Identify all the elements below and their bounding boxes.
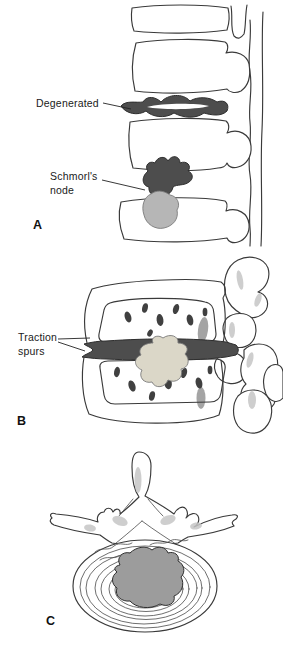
schmorls-node-disc-shape bbox=[143, 157, 192, 196]
degenerated-label: Degenerated bbox=[36, 96, 99, 110]
superior-articular-process bbox=[225, 257, 269, 318]
traction-spurs-label-line1: Traction bbox=[18, 330, 57, 344]
vertebral-body-upper bbox=[132, 39, 249, 93]
vertebral-body-lower bbox=[119, 198, 249, 243]
panel-letter-a: A bbox=[33, 218, 42, 232]
schmorls-node-label-line1: Schmorl's bbox=[50, 169, 98, 183]
transverse-process-b bbox=[264, 365, 283, 402]
vertebral-body-top bbox=[131, 5, 229, 33]
traction-spurs-label: Traction spurs bbox=[18, 330, 57, 358]
schmorls-node-label: Schmorl's node bbox=[50, 169, 98, 197]
vertebra-axial-outline bbox=[50, 452, 237, 545]
schmorls-node-label-line2: node bbox=[50, 183, 98, 197]
panel-letter-b: B bbox=[17, 414, 26, 428]
herniated-nucleus-shape-c bbox=[113, 547, 184, 607]
leader-line-schmorls bbox=[102, 180, 145, 190]
panel-b-drawing bbox=[58, 257, 283, 433]
figure-canvas: Degenerated Schmorl's node Traction spur… bbox=[0, 0, 283, 645]
traction-spurs-label-line2: spurs bbox=[18, 344, 57, 358]
spinous-process-top bbox=[231, 5, 247, 38]
leader-line-traction-upper bbox=[58, 338, 90, 339]
posterior-column-outline bbox=[261, 12, 263, 246]
panel-letter-c: C bbox=[46, 614, 55, 628]
panel-a-drawing bbox=[102, 5, 263, 246]
schmorls-node-shape bbox=[143, 191, 179, 228]
vertebral-body-middle bbox=[129, 118, 251, 170]
panel-c-drawing bbox=[50, 452, 237, 632]
posterior-column-inner-outline bbox=[249, 20, 251, 246]
leader-line-traction-lower bbox=[58, 342, 85, 351]
